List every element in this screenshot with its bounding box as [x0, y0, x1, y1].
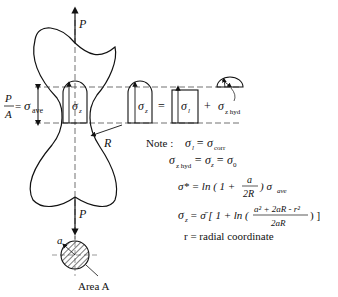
sigma-ave-label: σ: [24, 98, 31, 113]
specimen-outline: [30, 28, 116, 207]
svg-text:a: a: [247, 174, 252, 185]
load-label-bottom: P: [78, 207, 87, 221]
svg-text:corr: corr: [214, 144, 226, 152]
radius-R-label: R: [103, 136, 112, 150]
svg-text:σ: σ: [72, 99, 79, 113]
svg-text:=: =: [15, 100, 21, 112]
svg-text:=: =: [158, 99, 165, 113]
svg-text:z: z: [144, 107, 148, 115]
radial-coordinate-note: r = radial coordinate: [184, 230, 274, 242]
svg-text:l: l: [188, 107, 190, 115]
svg-text:ave: ave: [32, 106, 44, 115]
svg-text:0: 0: [233, 161, 237, 169]
svg-text:= σ: = σ: [196, 136, 214, 150]
radius-a-label: a: [57, 234, 63, 246]
note-label: Note :: [146, 137, 173, 149]
svg-text:z hyd: z hyd: [176, 162, 192, 170]
area-label: Area A: [78, 280, 110, 292]
diagram-canvas: P P a Area A P A = σ ave σ z σ z = σ l +…: [0, 0, 338, 297]
svg-text:z hyd: z hyd: [225, 108, 241, 116]
radius-arrow: [93, 125, 122, 135]
svg-text:z: z: [210, 161, 214, 169]
svg-text:z: z: [78, 107, 82, 115]
svg-text:σ: σ: [181, 99, 188, 113]
pa-denominator: A: [4, 108, 12, 120]
svg-text:l: l: [192, 144, 194, 152]
svg-text:= σ: = σ: [194, 153, 212, 167]
svg-text:a² + 2aR - r²: a² + 2aR - r²: [254, 204, 300, 214]
svg-text:= σ: = σ: [216, 153, 234, 167]
svg-text:σ: σ: [169, 153, 176, 167]
svg-text:2aR: 2aR: [271, 218, 286, 228]
svg-text:+: +: [204, 99, 211, 113]
svg-text:ave: ave: [277, 187, 287, 195]
svg-text:σ: σ: [178, 208, 185, 222]
svg-text:σ* = ln ( 1 +: σ* = ln ( 1 +: [178, 180, 235, 193]
svg-text:σ: σ: [218, 99, 225, 113]
svg-text:= σ̄ [ 1 + ln (: = σ̄ [ 1 + ln (: [190, 209, 250, 222]
load-label-top: P: [78, 17, 87, 31]
svg-text:2R: 2R: [243, 188, 254, 199]
svg-text:) ]: ) ]: [310, 209, 320, 222]
svg-text:z: z: [184, 216, 188, 224]
svg-text:σ: σ: [138, 99, 145, 113]
svg-text:) σ: ) σ: [259, 180, 272, 193]
pa-numerator: P: [4, 92, 12, 104]
svg-text:σ: σ: [185, 136, 192, 150]
